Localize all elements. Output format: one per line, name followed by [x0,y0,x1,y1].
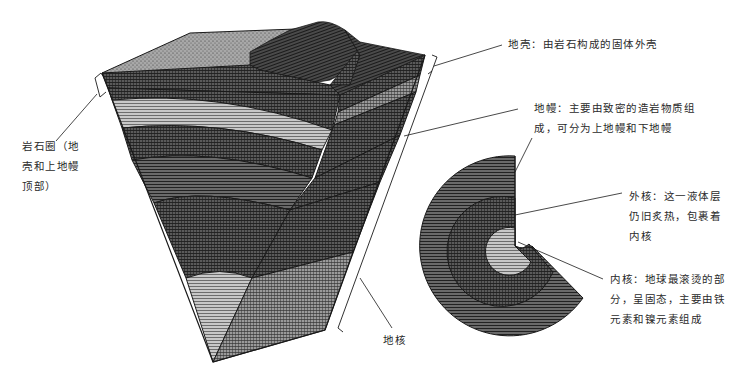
mantle-leader-line [404,109,518,136]
label-crust: 地壳：由岩石构成的固体外壳 [508,34,728,54]
label-core: 地核 [383,330,423,350]
crust-leader-line [434,45,502,66]
core-cross-section [420,138,622,336]
label-outer-core: 外核：这一液体层 仍旧炙热，包裹着 内核 [629,186,735,246]
earth-wedge [102,22,425,362]
core-leader-line [360,278,392,328]
lithosphere-bracket [56,73,106,141]
label-inner-core: 内核：地球最滚烫的部 分，呈固态，主要由铁 元素和镍元素组成 [610,269,735,329]
lithosphere-leader-line [56,94,97,141]
label-mantle: 地幔：主要由致密的造岩物质组 成，可分为上地幔和下地幔 [534,98,734,138]
label-lithosphere: 岩石圈（地 壳和上地幔 顶部） [22,136,102,196]
mantle-ring-leader-line [515,138,532,172]
outer-core-leader-line [515,193,622,215]
